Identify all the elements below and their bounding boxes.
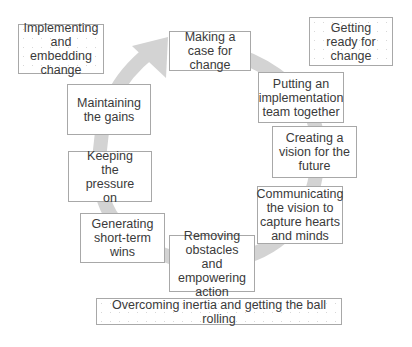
step-pressure: Keeping the pressure on	[68, 151, 152, 202]
phase-implementing: Implementing and embedding change	[18, 24, 104, 74]
step-vision: Creating a vision for the future	[272, 126, 357, 178]
step-short-term: Generating short-term wins	[80, 213, 165, 263]
step-removing: Removing obstacles and empowering action	[169, 235, 255, 292]
phase-overcoming-inertia: Overcoming inertia and getting the ball …	[96, 298, 342, 325]
step-team: Putting an implementation team together	[258, 72, 344, 123]
phase-getting-ready: Getting ready for change	[309, 17, 393, 66]
step-gains: Maintaining the gains	[67, 84, 151, 135]
step-communicating: Communicating the vision to capture hear…	[257, 186, 343, 244]
step-making-case: Making a case for change	[169, 31, 251, 71]
